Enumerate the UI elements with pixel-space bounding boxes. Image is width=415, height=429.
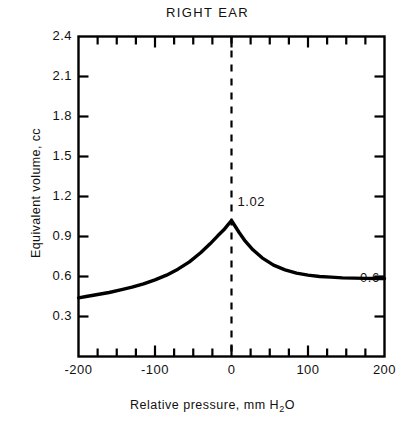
tympanogram-curve [79, 221, 385, 298]
plot-canvas [0, 0, 415, 429]
tympanogram-figure: RIGHT EAR Equivalent volume, cc Relative… [0, 0, 415, 429]
